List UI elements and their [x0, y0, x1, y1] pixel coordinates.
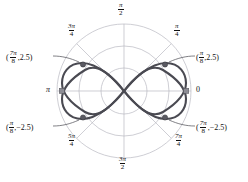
radius-value: −2.5 — [16, 124, 31, 132]
angle-label-3pi-2: 3π 2 — [118, 156, 127, 171]
paren-close: ) — [216, 54, 219, 62]
angle-label-7pi-4: 7π 4 — [174, 133, 183, 148]
point-label-bottom-right: ( 7π 8 , −2.5 ) — [196, 120, 227, 135]
angle-label-3pi-4: 3π 4 — [67, 23, 76, 38]
marked-point-7pi8-2p5 — [80, 62, 85, 67]
lemniscate-right-lobe-mirror — [124, 68, 186, 119]
radius-value: −2.5 — [210, 124, 225, 132]
paren-close: ) — [31, 124, 34, 132]
lemniscate-right-lobe — [124, 63, 186, 114]
paren-close: ) — [224, 124, 227, 132]
point-label-top-right: ( π 8 , 2.5 ) — [196, 50, 219, 65]
marked-point-zero-axis — [184, 88, 189, 93]
angle-label-pi-2: π 2 — [118, 2, 124, 17]
marked-point-7pi8-neg2p5 — [162, 115, 167, 120]
angle-label-5pi-4: 5π 4 — [67, 133, 76, 148]
angle-label-pi-4: π 4 — [174, 23, 180, 38]
lemniscate-left-lobe-mirror — [62, 68, 124, 119]
marked-point-pi-axis — [59, 88, 64, 93]
angle-label-pi: π — [46, 86, 50, 94]
angle-label-0: 0 — [196, 86, 200, 94]
lemniscate-left-lobe — [62, 63, 124, 114]
point-label-top-left: ( 7π 8 , 2.5 ) — [6, 50, 32, 65]
marked-point-pi8-neg2p5 — [80, 115, 85, 120]
radius-value: 2.5 — [206, 54, 216, 62]
marked-point-pi8-2p5 — [162, 62, 167, 67]
polar-plot-figure: π 2 3π 4 π 4 π 0 5π 4 7π 4 3π 2 — [0, 0, 248, 182]
point-label-bottom-left: ( π 8 , −2.5 ) — [6, 120, 33, 135]
paren-close: ) — [30, 54, 33, 62]
radius-value: 2.5 — [20, 54, 30, 62]
